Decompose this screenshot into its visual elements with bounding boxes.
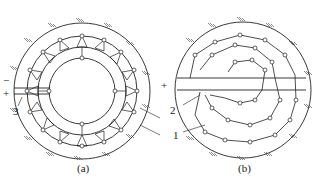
label-plus-b: + <box>161 80 167 91</box>
label-plus-a: + <box>3 88 9 99</box>
ring-inner <box>49 58 115 124</box>
spiral-outer <box>190 35 296 142</box>
diagram-canvas <box>0 0 321 182</box>
caption-b: (b) <box>238 163 251 174</box>
label-3: 3 <box>13 106 19 117</box>
label-2: 2 <box>170 105 176 116</box>
label-1: 1 <box>173 130 179 141</box>
panel-a-ring-layout <box>14 23 160 159</box>
spiral-inner <box>210 60 265 103</box>
outer-pit-wall <box>14 23 150 159</box>
caption-a: (a) <box>77 163 89 174</box>
label-minus-a: − <box>3 75 9 86</box>
